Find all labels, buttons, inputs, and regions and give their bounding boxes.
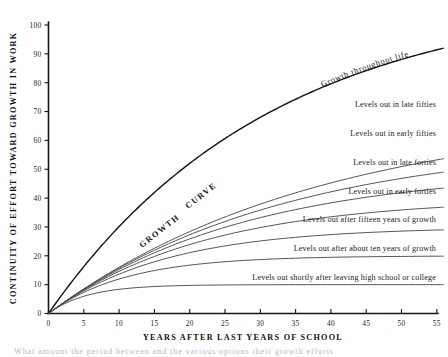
y-tick-label: 100 [30, 21, 42, 30]
growth-curve-chart: 0102030405060708090100 05101520253035404… [0, 0, 448, 357]
y-tick-label: 60 [34, 136, 42, 145]
y-tick-label: 40 [34, 194, 42, 203]
plateau-curve [49, 285, 444, 314]
y-tick-label: 0 [38, 309, 42, 318]
plateau-label: Levels out after fifteen years of growth [303, 215, 436, 224]
plateau-label: Levels out in late forties [353, 158, 436, 167]
y-tick-label: 80 [34, 79, 42, 88]
x-tick-label: 5 [82, 319, 86, 328]
x-tick-label: 45 [362, 319, 370, 328]
plateau-label: Levels out after about ten years of grow… [294, 244, 436, 253]
y-axis-ticks: 0102030405060708090100 [30, 21, 49, 319]
plateau-label-group: Levels out in late fiftiesLevels out in … [252, 100, 436, 282]
plateau-curve [49, 230, 444, 314]
plateau-label: Levels out shortly after leaving high sc… [252, 273, 436, 282]
x-tick-label: 25 [221, 319, 229, 328]
x-tick-label: 55 [433, 319, 441, 328]
y-axis-title: CONTINUITY OF EFFORT TOWARD GROWTH IN WO… [9, 32, 18, 305]
x-axis-title: YEARS AFTER LAST YEARS OF SCHOOL [143, 333, 343, 342]
y-tick-label: 30 [34, 223, 42, 232]
y-tick-label: 10 [34, 280, 42, 289]
page-footer-text-fragment: What amount the period between and the v… [14, 347, 438, 357]
plateau-label: Levels out in late fifties [355, 100, 436, 109]
plateau-label: Levels out in early forties [349, 187, 436, 196]
y-tick-label: 70 [34, 107, 42, 116]
x-tick-label: 35 [292, 319, 300, 328]
growth-throughout-life-annotation: Growth throughout life [320, 49, 410, 89]
x-tick-label: 40 [327, 319, 335, 328]
x-tick-label: 15 [150, 319, 158, 328]
y-tick-label: 20 [34, 252, 42, 261]
curve-annotation: CURVE [184, 181, 219, 211]
figure-container: 0102030405060708090100 05101520253035404… [0, 0, 448, 357]
y-tick-label: 90 [34, 50, 42, 59]
x-tick-label: 10 [115, 319, 123, 328]
x-tick-label: 30 [256, 319, 264, 328]
x-tick-label: 20 [186, 319, 194, 328]
plateau-curve [49, 159, 444, 314]
plateau-label: Levels out in early fifties [350, 129, 436, 138]
y-tick-label: 50 [34, 165, 42, 174]
x-axis-ticks: 0510152025303540455055 [47, 309, 441, 328]
x-tick-label: 50 [398, 319, 406, 328]
x-tick-label: 0 [47, 319, 51, 328]
